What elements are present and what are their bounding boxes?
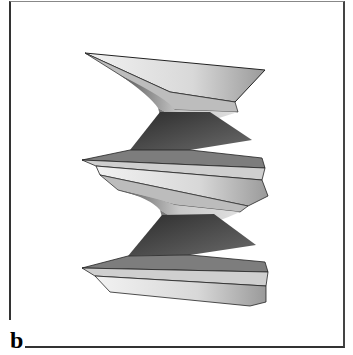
helicoid-surface-render (0, 0, 353, 355)
panel-label: b (10, 328, 25, 352)
